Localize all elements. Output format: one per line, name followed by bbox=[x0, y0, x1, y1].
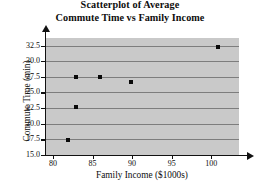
data-point bbox=[129, 80, 133, 84]
x-axis-tick-label: 80 bbox=[41, 160, 65, 168]
gridline bbox=[45, 139, 239, 140]
x-axis-tick-label: 85 bbox=[81, 160, 105, 168]
x-axis-tick-label: 100 bbox=[199, 160, 223, 168]
data-point bbox=[98, 75, 102, 79]
x-axis-tick-label: 90 bbox=[120, 160, 144, 168]
y-axis-tick bbox=[41, 77, 45, 78]
scatterplot-figure: Scatterplot of Average Commute Time vs F… bbox=[0, 0, 260, 189]
data-point bbox=[74, 75, 78, 79]
x-axis-tick-label: 95 bbox=[160, 160, 184, 168]
y-axis-tick bbox=[41, 92, 45, 93]
y-axis-tick bbox=[41, 155, 45, 156]
gridline bbox=[45, 46, 239, 47]
y-axis-arrow-icon bbox=[42, 25, 50, 32]
y-axis-tick bbox=[41, 61, 45, 62]
chart-title-line-2: Commute Time vs Family Income bbox=[0, 12, 260, 25]
gridline bbox=[45, 124, 239, 125]
y-axis-tick bbox=[41, 139, 45, 140]
x-axis-arrow-icon bbox=[247, 152, 254, 160]
gridline bbox=[45, 92, 239, 93]
data-point bbox=[216, 45, 220, 49]
data-point bbox=[66, 138, 70, 142]
y-axis-label: Commute Time (min) bbox=[22, 41, 32, 161]
y-axis-tick bbox=[41, 124, 45, 125]
y-axis-tick bbox=[41, 108, 45, 109]
data-point bbox=[74, 105, 78, 109]
y-axis-line bbox=[45, 31, 46, 155]
chart-title-line-1: Scatterplot of Average bbox=[0, 0, 260, 12]
plot-area bbox=[45, 38, 239, 155]
y-axis-tick bbox=[41, 46, 45, 47]
chart-title: Scatterplot of Average Commute Time vs F… bbox=[0, 0, 260, 24]
gridline bbox=[45, 61, 239, 62]
x-axis-label: Family Income ($1000s) bbox=[45, 170, 239, 180]
x-axis-line bbox=[45, 155, 248, 156]
